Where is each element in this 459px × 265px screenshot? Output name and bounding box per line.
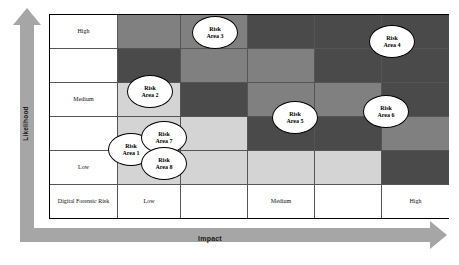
matrix-cell-r5c6[interactable] [382, 151, 449, 185]
risk-area-8-label: Risk Area 8 [155, 157, 172, 171]
matrix-cell-r2c3[interactable] [181, 49, 248, 83]
risk-area-6-line2: Area 6 [377, 112, 394, 118]
risk-area-3-line1: Risk [209, 26, 221, 32]
col-label-blank-3 [181, 185, 248, 218]
row-label-medium: Medium [50, 83, 118, 117]
matrix-cell-r3c3[interactable] [181, 83, 248, 117]
risk-area-4-line2: Area 4 [383, 42, 400, 48]
risk-area-5-line1: Risk [289, 111, 301, 117]
risk-area-8-marker[interactable]: Risk Area 8 [141, 147, 187, 180]
risk-area-3-label: Risk Area 3 [206, 26, 223, 40]
row-label-high: High [50, 15, 118, 49]
corner-label-digital-forensic-risk: Digital Forensic Risk [50, 185, 118, 218]
risk-area-6-line1: Risk [380, 105, 392, 111]
risk-area-6-marker[interactable]: Risk Area 6 [363, 95, 409, 128]
row-label-low: Low [50, 151, 118, 185]
matrix-cell-r5c5[interactable] [315, 151, 382, 185]
risk-area-3-line2: Area 3 [206, 33, 223, 39]
matrix-cell-r4c3[interactable] [181, 117, 248, 151]
matrix-cell-r1c4[interactable] [248, 15, 315, 49]
y-axis-label: Likelihood [22, 94, 29, 154]
risk-area-2-label: Risk Area 2 [141, 85, 158, 99]
risk-area-4-label: Risk Area 4 [383, 35, 400, 49]
col-label-blank-5 [315, 185, 382, 218]
risk-area-2-line2: Area 2 [141, 92, 158, 98]
col-label-medium: Medium [248, 185, 315, 218]
risk-area-3-marker[interactable]: Risk Area 3 [192, 16, 238, 49]
x-axis-label: Impact [150, 235, 270, 242]
matrix-cell-r5c4[interactable] [248, 151, 315, 185]
matrix-cell-r2c5[interactable] [315, 49, 382, 83]
col-label-low: Low [118, 185, 181, 218]
row-label-blank-2 [50, 49, 118, 83]
risk-area-8-line1: Risk [158, 157, 170, 163]
risk-area-7-line1: Risk [158, 131, 170, 137]
risk-area-5-marker[interactable]: Risk Area 5 [272, 101, 318, 134]
matrix-cell-r2c4[interactable] [248, 49, 315, 83]
risk-area-1-line2: Area 1 [122, 150, 139, 156]
matrix-cell-r5c3[interactable] [181, 151, 248, 185]
risk-area-1-label: Risk Area 1 [122, 143, 139, 157]
matrix-cell-r1c2[interactable] [118, 15, 181, 49]
risk-area-6-label: Risk Area 6 [377, 105, 394, 119]
risk-area-7-label: Risk Area 7 [155, 131, 172, 145]
risk-area-2-line1: Risk [144, 85, 156, 91]
risk-area-4-line1: Risk [386, 35, 398, 41]
risk-area-8-line2: Area 8 [155, 164, 172, 170]
risk-area-5-line2: Area 5 [286, 118, 303, 124]
risk-area-1-line1: Risk [125, 143, 137, 149]
risk-area-7-line2: Area 7 [155, 138, 172, 144]
risk-area-4-marker[interactable]: Risk Area 4 [369, 25, 415, 58]
risk-area-2-marker[interactable]: Risk Area 2 [127, 75, 173, 108]
col-label-high: High [382, 185, 449, 218]
risk-area-5-label: Risk Area 5 [286, 111, 303, 125]
risk-matrix-diagram: Likelihood Impact High Medium Low [0, 0, 459, 265]
